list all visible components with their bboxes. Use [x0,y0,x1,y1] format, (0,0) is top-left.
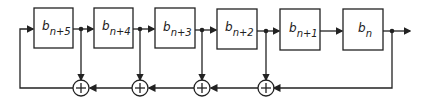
junction-dot [138,27,143,32]
register-label-n5: bn+5 [42,19,71,37]
register-label-n2: bn+2 [225,20,254,38]
adder-3 [194,80,210,96]
register-label-n4: bn+4 [102,19,131,37]
register-label-n1: bn+1 [289,21,318,39]
junction-dot [264,29,269,34]
lfsr-diagram: bn+5 bn+4 bn+3 bn+2 bn+1 bn [0,0,427,103]
junction-dot [79,27,84,32]
adder-4 [258,80,274,96]
register-label-n0: bn [358,21,372,39]
junction-dot [390,29,395,34]
adder-1 [73,80,89,96]
register-label-n3: bn+3 [163,20,192,38]
junction-dot [200,28,205,33]
adder-2 [132,80,148,96]
